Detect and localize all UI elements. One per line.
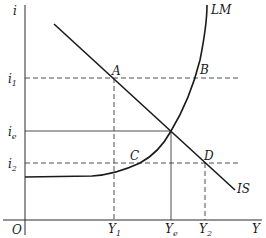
ye-label: Ye bbox=[165, 222, 178, 238]
point-c-label: C bbox=[130, 149, 139, 163]
origin-label: O bbox=[12, 223, 22, 237]
y-axis-label: i bbox=[13, 4, 17, 18]
y1-label: Y1 bbox=[108, 222, 121, 238]
i2-label: i2 bbox=[8, 157, 17, 173]
y2-label: Y2 bbox=[199, 222, 212, 238]
is-label: IS bbox=[236, 182, 250, 196]
lm-label: LM bbox=[210, 3, 232, 17]
i1-label: i1 bbox=[8, 72, 17, 88]
point-d-label: D bbox=[203, 149, 214, 163]
ie-label: ie bbox=[8, 125, 17, 141]
point-a-label: A bbox=[111, 64, 121, 78]
lm-curve bbox=[25, 5, 207, 177]
point-b-label: B bbox=[199, 63, 209, 77]
is-curve bbox=[54, 24, 235, 190]
is-lm-diagram: i Y O LM IS i1 ie i2 Y1 Ye Y2 A B C D bbox=[0, 0, 266, 238]
x-axis-label: Y bbox=[252, 222, 261, 236]
